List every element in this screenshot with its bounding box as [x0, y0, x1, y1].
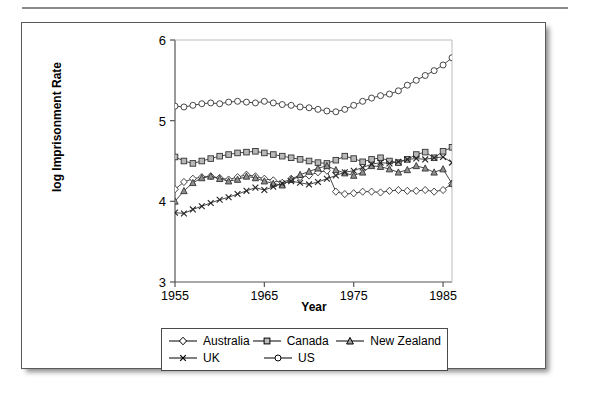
y-axis-title: log Imprisonment Rate	[50, 37, 64, 217]
top-horizontal-rule	[22, 7, 568, 9]
legend-item-us: US	[263, 351, 358, 365]
legend-item-australia: Australia	[168, 334, 252, 348]
circle-marker-icon	[263, 352, 293, 364]
legend-label: Canada	[287, 334, 329, 348]
legend-row: Australia Canada New Zealand	[168, 332, 441, 349]
legend-label: Australia	[203, 334, 250, 348]
legend-label: UK	[203, 351, 220, 365]
chart-legend: Australia Canada New Zealand UK US	[161, 328, 448, 371]
legend-item-new-zealand: New Zealand	[335, 334, 441, 348]
triangle-marker-icon	[335, 335, 365, 347]
legend-label: New Zealand	[370, 334, 441, 348]
legend-item-canada: Canada	[252, 334, 336, 348]
figure-container	[21, 22, 546, 369]
legend-row: UK US	[168, 349, 441, 366]
diamond-marker-icon	[168, 335, 198, 347]
square-marker-icon	[252, 335, 282, 347]
legend-item-uk: UK	[168, 351, 263, 365]
legend-label: US	[298, 351, 315, 365]
x-marker-icon	[168, 352, 198, 364]
x-axis-title: Year	[175, 300, 453, 314]
